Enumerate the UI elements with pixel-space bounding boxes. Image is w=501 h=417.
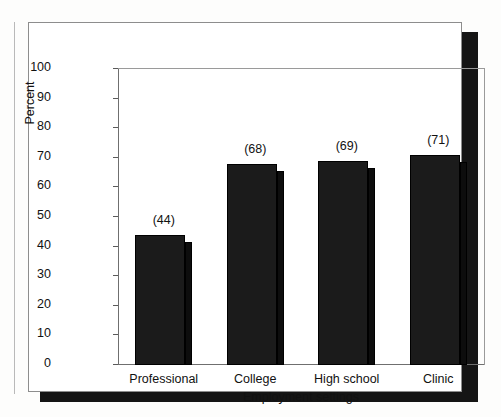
bar: [318, 161, 375, 365]
y-axis-tick-label: 40: [0, 238, 51, 252]
bar-front-face: [227, 164, 277, 365]
x-axis-title: Employment settings: [118, 390, 484, 404]
y-axis-tick-label: 0: [0, 356, 51, 370]
bar-side-face: [277, 171, 284, 365]
chart-panel: 0102030405060708090100 Percent Professio…: [28, 22, 462, 392]
bar: [135, 235, 192, 365]
x-axis-category-label: Clinic: [378, 372, 498, 386]
bar-value-label: (68): [215, 142, 295, 156]
bar: [410, 155, 467, 365]
bar-value-label: (69): [307, 139, 387, 153]
plot-right-border: [484, 68, 485, 365]
bar: [227, 164, 284, 365]
bar-front-face: [135, 235, 185, 365]
bar-value-label: (71): [398, 133, 478, 147]
y-axis-tick-label: 50: [0, 208, 51, 222]
bar-side-face: [460, 162, 467, 365]
bar-value-label: (44): [124, 213, 204, 227]
y-axis-title: Percent: [23, 43, 37, 163]
bar-side-face: [368, 168, 375, 365]
bar-front-face: [410, 155, 460, 365]
y-axis-tick-label: 30: [0, 267, 51, 281]
y-axis-tick-label: 20: [0, 297, 51, 311]
figure-page: 0102030405060708090100 Percent Professio…: [0, 0, 501, 417]
bar-side-face: [185, 242, 192, 365]
y-axis-tick-label: 60: [0, 178, 51, 192]
bar-front-face: [318, 161, 368, 365]
y-axis-tick-label: 10: [0, 326, 51, 340]
